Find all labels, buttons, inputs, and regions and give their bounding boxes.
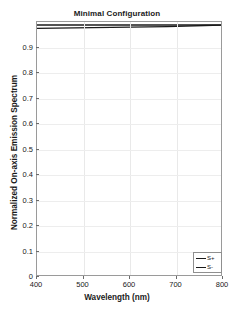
x-axis-tick-mark [222, 276, 223, 279]
chart-title: Minimal Configuration [0, 9, 234, 18]
legend[interactable]: S+ S- [193, 252, 222, 273]
x-axis-tick-label: 400 [16, 280, 56, 289]
y-axis-tick-labels: 00.10.20.30.40.50.60.70.80.9 [0, 0, 33, 320]
x-axis-tick-label: 800 [202, 280, 234, 289]
y-axis-tick-mark [36, 225, 39, 226]
gridline-horizontal [37, 226, 221, 227]
y-axis-tick-label: 0.3 [3, 195, 33, 204]
gridline-horizontal [37, 201, 221, 202]
gridline-horizontal [37, 150, 221, 151]
x-axis-tick-label: 700 [156, 280, 196, 289]
figure-canvas: Minimal Configuration Normalized On-axis… [0, 0, 234, 320]
y-axis-tick-label: 0.5 [3, 144, 33, 153]
gridline-vertical [177, 22, 178, 275]
legend-item-0[interactable]: S+ [195, 254, 220, 263]
x-axis-tick-label: 500 [63, 280, 103, 289]
y-axis-tick-mark [36, 47, 39, 48]
gridline-horizontal [37, 48, 221, 49]
x-axis-tick-mark [129, 276, 130, 279]
plot-area [36, 21, 222, 276]
y-axis-tick-mark [36, 149, 39, 150]
y-axis-tick-label: 0.8 [3, 68, 33, 77]
y-axis-tick-mark [36, 72, 39, 73]
x-axis-tick-label: 600 [109, 280, 149, 289]
x-axis-tick-mark [176, 276, 177, 279]
x-axis-tick-mark [83, 276, 84, 279]
gridline-horizontal [37, 175, 221, 176]
y-axis-tick-mark [36, 276, 39, 277]
y-axis-tick-mark [36, 251, 39, 252]
y-axis-tick-mark [36, 200, 39, 201]
y-axis-tick-label: 0.2 [3, 221, 33, 230]
legend-item-label: S+ [207, 254, 215, 263]
y-axis-tick-mark [36, 98, 39, 99]
x-axis-label: Wavelength (nm) [0, 293, 234, 302]
y-axis-tick-label: 0.9 [3, 42, 33, 51]
y-axis-tick-mark [36, 174, 39, 175]
y-axis-tick-label: 0.4 [3, 170, 33, 179]
legend-line-icon [196, 267, 206, 268]
y-axis-tick-label: 0.7 [3, 93, 33, 102]
y-axis-tick-label: 0.1 [3, 246, 33, 255]
y-axis-tick-mark [36, 123, 39, 124]
legend-item-1[interactable]: S- [195, 263, 220, 272]
legend-line-icon [196, 258, 206, 259]
gridline-horizontal [37, 99, 221, 100]
gridline-vertical [84, 22, 85, 275]
y-axis-tick-label: 0.6 [3, 119, 33, 128]
legend-item-label: S- [207, 263, 213, 272]
gridline-vertical [130, 22, 131, 275]
gridline-horizontal [37, 73, 221, 74]
gridline-horizontal [37, 124, 221, 125]
